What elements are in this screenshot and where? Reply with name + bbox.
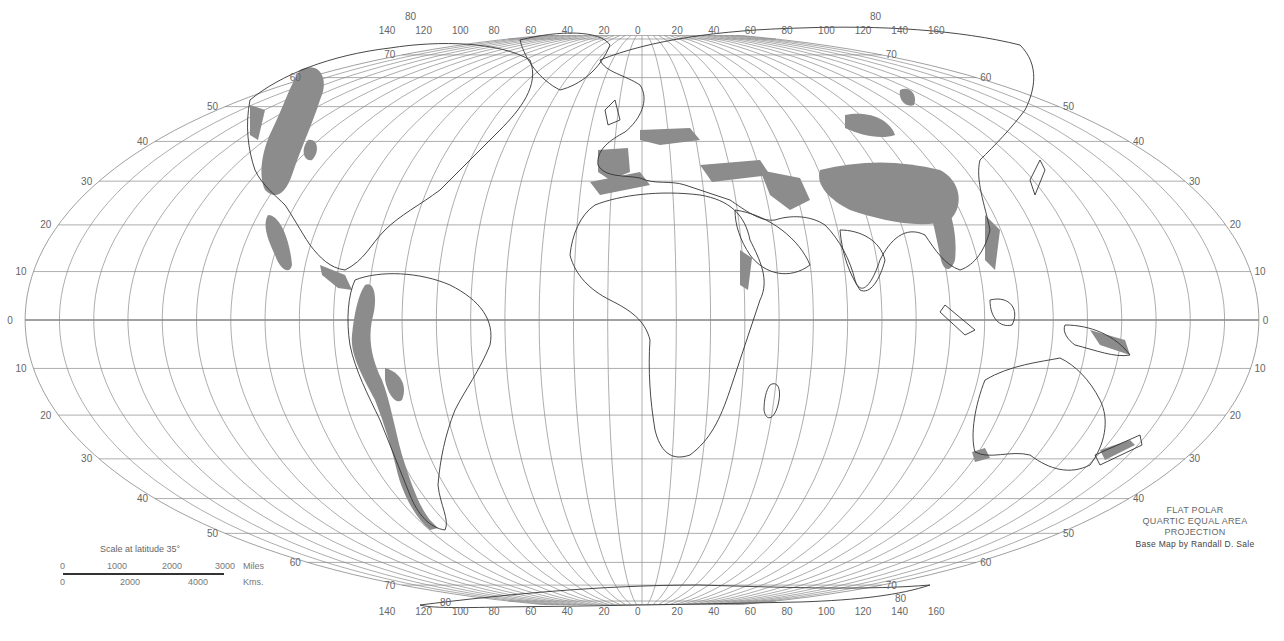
longitude-label-top: 140 (379, 25, 396, 36)
latitude-label: 40 (137, 136, 149, 147)
latitude-label: 0 (7, 315, 13, 326)
latitude-label: 30 (1189, 176, 1201, 187)
longitude-label-top: 120 (855, 25, 872, 36)
longitude-label-bottom: 100 (818, 606, 835, 617)
scale-km-tick: 4000 (188, 577, 208, 587)
latitude-label: 10 (15, 363, 27, 374)
latitude-label: 0 (1263, 315, 1269, 326)
longitude-label-bottom: 80 (489, 606, 501, 617)
latitude-label: 60 (290, 557, 302, 568)
latitude-label: 80 (405, 11, 417, 22)
longitude-label-bottom: 20 (598, 606, 610, 617)
longitude-label-top: 60 (745, 25, 757, 36)
longitude-label-bottom: 80 (781, 606, 793, 617)
longitude-label-bottom: 140 (379, 606, 396, 617)
latitude-label: 30 (81, 453, 93, 464)
latitude-label: 70 (886, 580, 898, 591)
longitude-label-bottom: 60 (525, 606, 537, 617)
longitude-label-bottom: 60 (745, 606, 757, 617)
latitude-label: 10 (1255, 363, 1267, 374)
map-credit: Base Map by Randall D. Sale (1120, 539, 1270, 550)
coastlines (248, 27, 1142, 607)
projection-line: FLAT POLAR (1120, 505, 1270, 516)
longitude-label-bottom: 120 (415, 606, 432, 617)
latitude-label: 10 (15, 266, 27, 277)
latitude-label: 70 (384, 580, 396, 591)
longitude-label-bottom: 40 (562, 606, 574, 617)
scale-km-tick: 2000 (120, 577, 140, 587)
longitude-label-bottom: 140 (891, 606, 908, 617)
scale-mile-tick: 1000 (107, 561, 127, 571)
latitude-label: 20 (40, 410, 52, 421)
latitude-label: 40 (1133, 493, 1145, 504)
latitude-label: 50 (1063, 528, 1075, 539)
longitude-label-bottom: 40 (708, 606, 720, 617)
latitude-label: 60 (290, 72, 302, 83)
latitude-label: 30 (81, 176, 93, 187)
projection-title-block: FLAT POLAR QUARTIC EQUAL AREA PROJECTION… (1120, 505, 1270, 550)
latitude-label: 50 (207, 528, 219, 539)
longitude-label-bottom: 20 (672, 606, 684, 617)
scale-title: Scale at latitude 35° (100, 544, 180, 554)
longitude-label-top: 140 (891, 25, 908, 36)
scale-mile-unit: Miles (243, 561, 264, 571)
projection-line: QUARTIC EQUAL AREA (1120, 516, 1270, 527)
longitude-label-top: 100 (452, 25, 469, 36)
longitude-label-top: 40 (562, 25, 574, 36)
longitude-label-bottom: 100 (452, 606, 469, 617)
longitude-label-top: 20 (598, 25, 610, 36)
scale-km-unit: Kms. (243, 577, 264, 587)
latitude-label: 20 (1230, 410, 1242, 421)
latitude-label: 40 (1133, 136, 1145, 147)
longitude-label-bottom: 0 (635, 606, 641, 617)
latitude-label: 30 (1189, 453, 1201, 464)
graticule (25, 36, 1259, 605)
longitude-label-top: 120 (415, 25, 432, 36)
scale-mile-tick: 2000 (162, 561, 182, 571)
latitude-label: 60 (980, 557, 992, 568)
world-map: 7070606050504040303020201010001010202030… (0, 0, 1284, 641)
latitude-label: 80 (440, 597, 452, 608)
longitude-label-top: 80 (489, 25, 501, 36)
latitude-label: 80 (870, 11, 882, 22)
latitude-label: 70 (886, 49, 898, 60)
scale-bar (63, 573, 224, 575)
latitude-label: 10 (1255, 266, 1267, 277)
longitude-label-top: 40 (708, 25, 720, 36)
longitude-label-bottom: 120 (855, 606, 872, 617)
longitude-label-top: 80 (781, 25, 793, 36)
scale-mile-tick: 3000 (215, 561, 235, 571)
projection-line: PROJECTION (1120, 527, 1270, 538)
latitude-label: 80 (895, 593, 907, 604)
scale-km-tick: 0 (60, 577, 65, 587)
longitude-label-top: 0 (635, 25, 641, 36)
latitude-label: 50 (207, 101, 219, 112)
longitude-label-top: 160 (928, 25, 945, 36)
scale-mile-tick: 0 (60, 561, 65, 571)
latitude-label: 50 (1063, 101, 1075, 112)
latitude-label: 20 (40, 219, 52, 230)
longitude-label-top: 60 (525, 25, 537, 36)
latitude-label: 60 (980, 72, 992, 83)
latitude-label: 70 (384, 49, 396, 60)
longitude-label-top: 20 (672, 25, 684, 36)
latitude-label: 20 (1230, 219, 1242, 230)
longitude-label-top: 100 (818, 25, 835, 36)
latitude-label: 40 (137, 493, 149, 504)
longitude-label-bottom: 160 (928, 606, 945, 617)
